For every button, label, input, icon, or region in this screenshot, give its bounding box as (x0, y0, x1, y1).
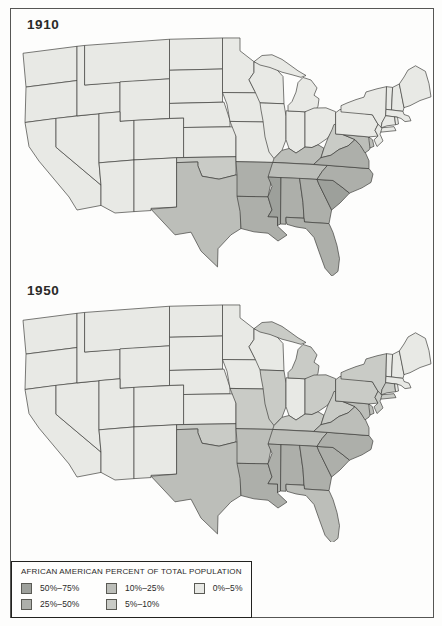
map-1910 (0, 30, 442, 276)
legend-item-label: 5%–10% (125, 599, 160, 609)
state-de-1950 (369, 404, 374, 415)
state-nm-1910 (134, 158, 177, 212)
state-or-1910 (25, 81, 77, 123)
state-wa-1910 (23, 46, 77, 87)
state-de-1910 (369, 137, 374, 148)
legend-item-label: 50%–75% (40, 583, 79, 593)
legend-swatch-10-25 (106, 583, 117, 594)
state-ri-1950 (395, 384, 399, 392)
state-co-1910 (134, 118, 184, 160)
state-wy-1910 (120, 79, 170, 122)
state-nm-1950 (134, 425, 177, 479)
legend-swatch-25-50 (21, 599, 32, 610)
state-fl-1910 (286, 217, 340, 276)
legend-item: 25%–50% (21, 596, 106, 612)
state-in-1950 (286, 378, 305, 420)
legend-item-label: 10%–25% (125, 583, 164, 593)
state-nd-1910 (170, 38, 223, 70)
state-co-1950 (134, 385, 184, 427)
state-ks-1950 (184, 394, 236, 425)
state-in-1910 (286, 111, 305, 153)
state-ri-1910 (395, 117, 399, 125)
state-fl-1950 (286, 484, 340, 542)
state-me-1950 (399, 333, 431, 375)
state-az-1910 (99, 160, 134, 213)
map-1950 (0, 296, 442, 542)
map-figure: 1910 1950 AFRICAN AMERICAN PERCENT OF TO… (0, 0, 442, 626)
legend: AFRICAN AMERICAN PERCENT OF TOTAL POPULA… (11, 561, 252, 618)
state-mt-1950 (85, 306, 170, 352)
legend-item: 5%–10% (106, 596, 194, 612)
state-ks-1910 (184, 127, 236, 158)
legend-item: 0%–5% (194, 580, 251, 596)
legend-item-label: 0%–5% (213, 583, 243, 593)
legend-title: AFRICAN AMERICAN PERCENT OF TOTAL POPULA… (21, 567, 251, 576)
legend-swatch-5-10 (106, 599, 117, 610)
state-or-1950 (25, 348, 77, 390)
legend-columns: 50%–75% 25%–50% 10%–25% 5%–10% (21, 580, 251, 612)
state-nd-1950 (170, 305, 223, 337)
state-wy-1950 (120, 346, 170, 389)
legend-item-label: 25%–50% (40, 599, 79, 609)
state-mt-1910 (85, 39, 170, 85)
state-me-1910 (399, 66, 431, 108)
state-sd-1910 (170, 69, 223, 103)
legend-swatch-50-75 (21, 583, 32, 594)
legend-swatch-0-5 (194, 583, 205, 594)
legend-item: 50%–75% (21, 580, 106, 596)
state-az-1950 (99, 427, 134, 480)
legend-item: 10%–25% (106, 580, 194, 596)
state-sd-1950 (170, 336, 223, 370)
state-wa-1950 (23, 313, 77, 354)
